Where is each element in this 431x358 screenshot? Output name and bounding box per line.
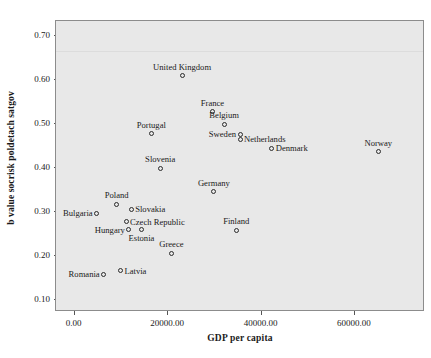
x-tick-mark: [354, 311, 355, 315]
x-tick-label: 40000.00: [226, 318, 296, 328]
scatter-chart: b value socrisk poldetach satgov 0.100.2…: [0, 0, 431, 358]
x-tick-label: 60000.00: [319, 318, 389, 328]
x-tick-label: 0.00: [39, 318, 109, 328]
x-tick-mark: [74, 311, 75, 315]
x-axis-ticks: 0.0020000.0040000.0060000.00: [0, 0, 431, 358]
x-axis-title: GDP per capita: [55, 333, 425, 343]
x-tick-mark: [167, 311, 168, 315]
x-tick-mark: [261, 311, 262, 315]
x-tick-label: 20000.00: [132, 318, 202, 328]
